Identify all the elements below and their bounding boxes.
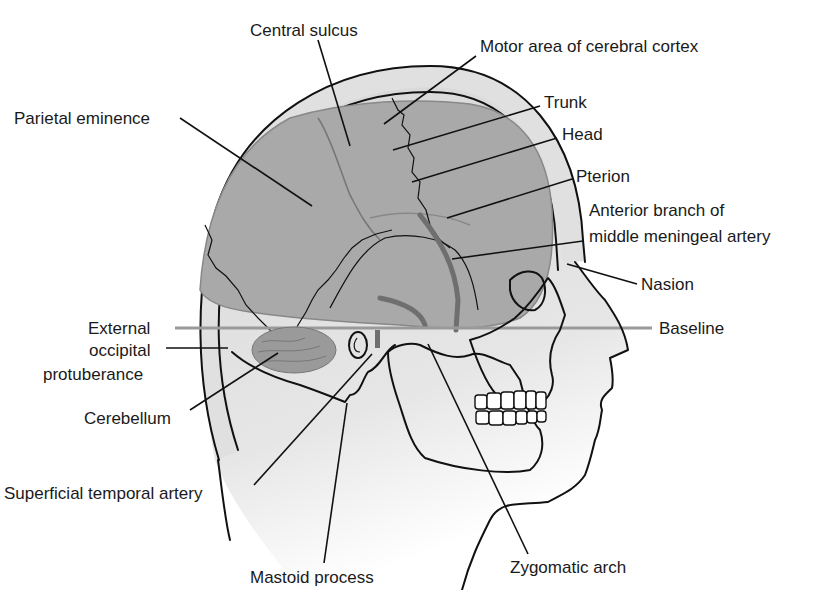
label-zygomatic-arch: Zygomatic arch xyxy=(510,558,626,577)
label-motor-area: Motor area of cerebral cortex xyxy=(480,37,699,56)
temporal-artery-segment xyxy=(375,330,380,348)
label-external-line2: occipital xyxy=(89,341,150,360)
cerebrum xyxy=(200,101,553,328)
label-superficial-temporal-artery: Superficial temporal artery xyxy=(4,484,203,503)
label-anterior-branch-line1: Anterior branch of xyxy=(589,201,724,220)
label-parietal-eminence: Parietal eminence xyxy=(14,109,150,128)
label-nasion: Nasion xyxy=(641,275,694,294)
teeth xyxy=(475,391,546,425)
label-central-sulcus: Central sulcus xyxy=(250,21,358,40)
head-illustration: Central sulcus Motor area of cerebral co… xyxy=(0,0,813,590)
label-external-line1: External xyxy=(88,319,150,338)
cerebellum-shape xyxy=(252,327,336,373)
label-trunk: Trunk xyxy=(544,93,587,112)
label-external-line3: protuberance xyxy=(43,365,143,384)
label-anterior-branch-line2: middle meningeal artery xyxy=(589,227,771,246)
label-mastoid-process: Mastoid process xyxy=(250,568,374,587)
label-baseline: Baseline xyxy=(659,319,724,338)
label-head: Head xyxy=(562,125,603,144)
label-pterion: Pterion xyxy=(576,167,630,186)
anatomy-diagram: Central sulcus Motor area of cerebral co… xyxy=(0,0,813,590)
label-cerebellum: Cerebellum xyxy=(84,409,171,428)
